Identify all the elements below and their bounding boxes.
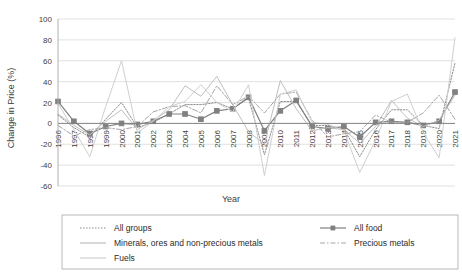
series-marker [326,126,331,131]
y-tick-label: -40 [40,161,52,170]
series-marker [294,98,299,103]
x-tick-label: 2004 [181,129,190,147]
x-tick-label: 2006 [213,129,222,147]
y-tick-label: -60 [40,182,52,191]
series-marker [278,109,283,114]
x-tick-label: 2018 [403,129,412,147]
series-marker [342,124,347,129]
legend-label-2: Minerals, ores and non-precious metals [114,238,263,248]
series-marker [215,109,220,114]
series-marker [183,112,188,117]
x-tick-label: 2007 [229,129,238,147]
legend-label-1: All food [354,223,383,233]
x-tick-label: 2000 [118,129,127,147]
y-axis-title: Change in Price (%) [6,68,16,149]
legend-marker-1 [331,226,336,231]
series-marker [199,117,204,122]
y-tick-label: 80 [43,36,52,45]
x-tick-label: 2013 [324,129,333,147]
chart-canvas: -60-40-20020406080100 199619971998199920… [0,0,462,274]
price-change-line-chart: -60-40-20020406080100 199619971998199920… [0,0,462,274]
gridlines-group [58,19,455,186]
x-tick-label: 2002 [149,129,158,147]
y-tick-label: 0 [48,119,53,128]
x-tick-label: 2005 [197,129,206,147]
legend-label-4: Fuels [114,253,135,263]
y-tick-label: 20 [43,99,52,108]
y-axis-tick-labels: -60-40-20020406080100 [39,15,53,191]
x-tick-label: 2011 [292,129,301,147]
chart-legend: All groupsAll foodMinerals, ores and non… [62,215,458,269]
y-tick-label: 40 [43,78,52,87]
x-tick-label: 2021 [451,129,460,147]
x-tick-label: 2012 [308,129,317,147]
y-tick-label: 100 [39,15,53,24]
x-tick-label: 1999 [102,129,111,147]
plot-series-group [56,38,458,176]
legend-label-0: All groups [114,223,152,233]
series-marker [357,135,362,140]
y-tick-label: -20 [40,140,52,149]
x-tick-label: 1996 [54,129,63,147]
x-tick-label: 2017 [387,129,396,147]
series-marker [262,128,267,133]
x-tick-label: 2010 [276,129,285,147]
x-tick-label: 1997 [70,129,79,147]
y-tick-label: 60 [43,57,52,66]
x-tick-label: 2003 [165,129,174,147]
series-marker [167,112,172,117]
series-marker [453,90,458,95]
legend-label-3: Precious metals [354,238,414,248]
x-axis-title: Year [222,194,240,204]
